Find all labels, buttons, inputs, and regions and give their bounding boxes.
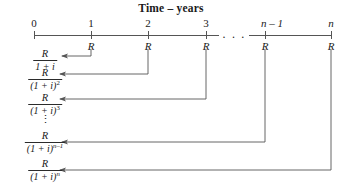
- pv-numerator-n: R: [28, 158, 62, 170]
- annuity-present-value-timeline-figure: Time – years: [0, 0, 343, 191]
- pv-denominator-n: (1 + i)n: [28, 172, 62, 183]
- axis-ellipsis-icon: · · ·: [219, 31, 249, 43]
- pv-denominator-text-n: (1 + i): [30, 171, 56, 182]
- pv-exponent-n-minus-1: n–1: [53, 142, 63, 149]
- pv-numerator-1: R: [33, 48, 57, 60]
- tick-label-0: 0: [31, 18, 37, 29]
- tick-label-n: n: [328, 18, 334, 29]
- pv-denominator-text-n-minus-1: (1 + i): [27, 143, 53, 154]
- pv-arrow-2: [60, 49, 148, 74]
- vertical-ellipsis-icon: ⋮: [40, 114, 51, 125]
- pv-numerator-3: R: [28, 92, 62, 104]
- tick-label-1: 1: [88, 18, 94, 29]
- present-value-term-2: R (1 + i)2: [28, 67, 62, 92]
- tick-label-2: 2: [145, 18, 151, 29]
- pv-exponent-n: n: [56, 170, 59, 177]
- payment-label-3: R: [203, 41, 210, 52]
- present-value-term-n: R (1 + i)n: [28, 158, 62, 183]
- tick-label-3: 3: [203, 18, 209, 29]
- present-value-term-n-minus-1: R (1 + i)n–1: [25, 130, 65, 155]
- pv-exponent-3: 3: [56, 104, 59, 111]
- pv-denominator-text-2: (1 + i): [30, 80, 56, 91]
- payment-label-n: R: [328, 41, 335, 52]
- pv-arrow-n-minus-1: [62, 49, 265, 142]
- payment-label-1: R: [88, 41, 95, 52]
- tick-label-n-minus-1: n – 1: [261, 18, 283, 29]
- pv-denominator-n-minus-1: (1 + i)n–1: [25, 144, 65, 155]
- pv-exponent-2: 2: [56, 79, 59, 86]
- pv-denominator-2: (1 + i)2: [28, 81, 62, 92]
- pv-numerator-n-minus-1: R: [25, 130, 65, 142]
- pv-numerator-2: R: [28, 67, 62, 79]
- pv-arrow-n: [60, 49, 331, 170]
- payment-label-2: R: [145, 41, 152, 52]
- payment-label-n-minus-1: R: [262, 41, 269, 52]
